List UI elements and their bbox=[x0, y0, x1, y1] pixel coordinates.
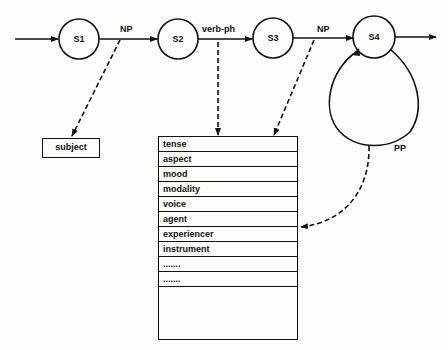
arc-np-label-2: NP bbox=[317, 24, 330, 34]
arc-pp-label: PP bbox=[394, 143, 406, 153]
frame-slot-mood: mood bbox=[159, 167, 297, 182]
arc-verb-ph-label: verb-ph bbox=[202, 24, 235, 34]
frame-slot-tense: tense bbox=[159, 137, 297, 152]
arc-np-label-1: NP bbox=[120, 24, 133, 34]
arc-pp-loop bbox=[329, 50, 418, 146]
frame-slot-agent: agent bbox=[159, 212, 297, 227]
frame-slot-ellipsis-1: ....... bbox=[159, 257, 297, 272]
state-s1-label: S1 bbox=[73, 34, 84, 44]
state-s2: S2 bbox=[158, 19, 198, 59]
state-s3-label: S3 bbox=[267, 33, 278, 43]
subject-label: subject bbox=[55, 142, 87, 152]
state-s3: S3 bbox=[253, 18, 293, 58]
subject-box: subject bbox=[42, 138, 100, 158]
state-s2-label: S2 bbox=[172, 34, 183, 44]
frame-slot-ellipsis-2: ....... bbox=[159, 272, 297, 287]
state-s1: S1 bbox=[59, 19, 99, 59]
frame-slot-experiencer: experiencer bbox=[159, 227, 297, 242]
frame-slot-modality: modality bbox=[159, 182, 297, 197]
state-s4-label: S4 bbox=[368, 32, 379, 42]
frame-slot-aspect: aspect bbox=[159, 152, 297, 167]
frame-slot-instrument: instrument bbox=[159, 242, 297, 257]
case-frame: tense aspect mood modality voice agent e… bbox=[158, 136, 298, 340]
frame-slot-voice: voice bbox=[159, 197, 297, 212]
link-pp-to-agent bbox=[301, 146, 369, 227]
